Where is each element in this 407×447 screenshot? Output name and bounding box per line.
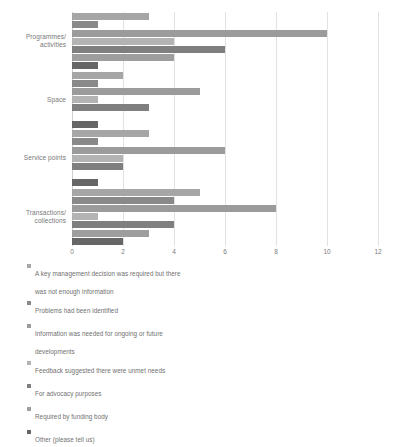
bar[interactable] bbox=[72, 88, 200, 95]
bar-row bbox=[72, 72, 378, 79]
legend-label: Problems had been identified bbox=[35, 307, 118, 314]
bar[interactable] bbox=[72, 104, 149, 111]
category-label: Programmes/ activities bbox=[0, 33, 66, 49]
bar-row bbox=[72, 163, 378, 170]
x-tick-label: 4 bbox=[172, 248, 176, 255]
bar-row bbox=[72, 221, 378, 228]
bar-row bbox=[72, 189, 378, 196]
bar-row bbox=[72, 147, 378, 154]
bar-group bbox=[72, 129, 378, 188]
bar[interactable] bbox=[72, 96, 98, 103]
bar-row bbox=[72, 197, 378, 204]
bar[interactable] bbox=[72, 138, 98, 145]
legend-label: Information was needed for ongoing or fu… bbox=[35, 330, 163, 355]
bar-row bbox=[72, 213, 378, 220]
x-axis-ticks: 024681012 bbox=[72, 248, 378, 260]
bar-row bbox=[72, 62, 378, 69]
bar-row bbox=[72, 104, 378, 111]
bar[interactable] bbox=[72, 72, 123, 79]
bar[interactable] bbox=[72, 80, 98, 87]
bar-row bbox=[72, 21, 378, 28]
bar-row bbox=[72, 30, 378, 37]
bar[interactable] bbox=[72, 155, 123, 162]
bar[interactable] bbox=[72, 54, 174, 61]
category-axis-labels: Programmes/ activitiesSpaceService point… bbox=[0, 12, 70, 246]
legend-item[interactable]: Other (please tell us) bbox=[27, 428, 327, 446]
legend-label: A key management decision was required b… bbox=[35, 270, 181, 295]
bar[interactable] bbox=[72, 30, 327, 37]
bar-row bbox=[72, 113, 378, 120]
legend-item[interactable]: Problems had been identified bbox=[27, 299, 327, 317]
bar-row bbox=[72, 130, 378, 137]
x-tick-label: 2 bbox=[121, 248, 125, 255]
legend-label: Other (please tell us) bbox=[35, 436, 95, 443]
bar-row bbox=[72, 46, 378, 53]
bar[interactable] bbox=[72, 221, 174, 228]
x-tick-label: 10 bbox=[323, 248, 330, 255]
legend-item[interactable]: A key management decision was required b… bbox=[27, 262, 327, 298]
bar[interactable] bbox=[72, 38, 174, 45]
legend-swatch-icon bbox=[27, 361, 31, 365]
bar-group bbox=[72, 188, 378, 247]
bar[interactable] bbox=[72, 62, 98, 69]
gridline-12 bbox=[378, 12, 379, 246]
bar[interactable] bbox=[72, 147, 225, 154]
x-tick-label: 6 bbox=[223, 248, 227, 255]
legend-swatch-icon bbox=[27, 301, 31, 305]
bar-groups bbox=[72, 12, 378, 246]
bar-row bbox=[72, 155, 378, 162]
bar-row bbox=[72, 96, 378, 103]
x-tick-label: 0 bbox=[70, 248, 74, 255]
bar-row bbox=[72, 238, 378, 245]
bar-row bbox=[72, 54, 378, 61]
category-label: Service points bbox=[0, 154, 66, 162]
bar-row bbox=[72, 38, 378, 45]
legend-label: For advocacy purposes bbox=[35, 390, 102, 397]
legend-label: Feedback suggested there were unmet need… bbox=[35, 367, 165, 374]
legend-item[interactable]: Information was needed for ongoing or fu… bbox=[27, 322, 327, 358]
bar[interactable] bbox=[72, 13, 149, 20]
category-label: Space bbox=[0, 96, 66, 104]
bar-row bbox=[72, 138, 378, 145]
chart-legend: A key management decision was required b… bbox=[27, 262, 327, 447]
bar-row bbox=[72, 179, 378, 186]
legend-swatch-icon bbox=[27, 264, 31, 268]
legend-label: Required by funding body bbox=[35, 413, 108, 420]
bar[interactable] bbox=[72, 230, 149, 237]
bar[interactable] bbox=[72, 46, 225, 53]
bar[interactable] bbox=[72, 179, 98, 186]
bar-row bbox=[72, 13, 378, 20]
legend-item[interactable]: For advocacy purposes bbox=[27, 382, 327, 400]
bar-group bbox=[72, 12, 378, 71]
bar-row bbox=[72, 205, 378, 212]
x-tick-label: 12 bbox=[374, 248, 381, 255]
legend-swatch-icon bbox=[27, 407, 31, 411]
bar-row bbox=[72, 80, 378, 87]
bar[interactable] bbox=[72, 121, 98, 128]
bar[interactable] bbox=[72, 238, 123, 245]
bar[interactable] bbox=[72, 163, 123, 170]
legend-swatch-icon bbox=[27, 430, 31, 434]
legend-item[interactable]: Feedback suggested there were unmet need… bbox=[27, 359, 327, 377]
x-tick-label: 8 bbox=[274, 248, 278, 255]
bar-row bbox=[72, 121, 378, 128]
bar[interactable] bbox=[72, 213, 98, 220]
legend-swatch-icon bbox=[27, 324, 31, 328]
category-label: Transactions/ collections bbox=[0, 209, 66, 225]
bar-row bbox=[72, 88, 378, 95]
bar-group bbox=[72, 71, 378, 130]
bar[interactable] bbox=[72, 21, 98, 28]
plot-wrapper: Programmes/ activitiesSpaceService point… bbox=[0, 0, 407, 252]
plot-area bbox=[72, 12, 378, 246]
bar-row bbox=[72, 230, 378, 237]
bar[interactable] bbox=[72, 130, 149, 137]
bar-row bbox=[72, 171, 378, 178]
bar[interactable] bbox=[72, 189, 200, 196]
bar[interactable] bbox=[72, 197, 174, 204]
legend-swatch-icon bbox=[27, 384, 31, 388]
bar[interactable] bbox=[72, 205, 276, 212]
legend-item[interactable]: Required by funding body bbox=[27, 405, 327, 423]
